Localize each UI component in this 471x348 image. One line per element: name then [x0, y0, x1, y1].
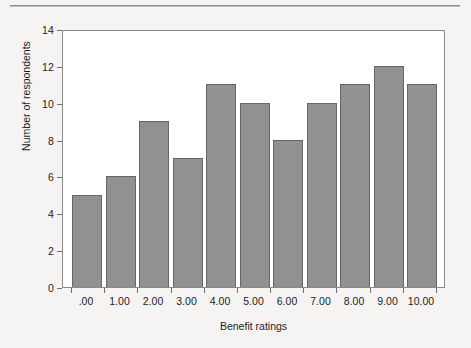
top-divider-rule — [10, 5, 460, 7]
y-axis-tick-label: 6 — [48, 171, 54, 183]
bar — [173, 158, 203, 287]
histogram-figure: 02468101214 Number of respondents .001.0… — [0, 0, 471, 348]
y-axis-title: Number of respondents — [20, 0, 32, 196]
x-axis-tick — [137, 288, 138, 293]
plot-area — [62, 30, 445, 288]
y-axis-tick-label: 4 — [48, 208, 54, 220]
bar — [106, 176, 136, 287]
x-axis-title: Benefit ratings — [62, 320, 445, 332]
y-axis-tick-label: 8 — [48, 135, 54, 147]
x-axis-tick-label: 9.00 — [373, 295, 403, 307]
x-axis-tick — [171, 288, 172, 293]
bar — [206, 84, 236, 287]
bar-series — [72, 31, 437, 287]
bar — [72, 195, 102, 287]
bar — [273, 140, 303, 287]
x-axis-tick-label: .00 — [71, 295, 101, 307]
x-axis-tick — [336, 288, 337, 293]
bar — [374, 66, 404, 287]
x-axis-tick-label: 5.00 — [239, 295, 269, 307]
x-tick-label-group: .001.002.003.004.005.006.007.008.009.001… — [71, 295, 436, 307]
y-axis-tick-label: 0 — [48, 282, 54, 294]
x-axis-tick-label: 10.00 — [406, 295, 436, 307]
x-axis-tick-label: 6.00 — [272, 295, 302, 307]
y-axis-tick-label: 12 — [42, 61, 54, 73]
x-axis-tick — [403, 288, 404, 293]
plot-inner — [63, 31, 444, 287]
x-axis-tick-label: 7.00 — [306, 295, 336, 307]
bar — [307, 103, 337, 287]
x-axis-tick — [104, 288, 105, 293]
bar — [340, 84, 370, 287]
y-axis-tick-label: 10 — [42, 98, 54, 110]
x-axis-tick — [237, 288, 238, 293]
x-axis-tick-label: 2.00 — [138, 295, 168, 307]
x-axis-tick — [270, 288, 271, 293]
x-axis-tick-label: 4.00 — [205, 295, 235, 307]
x-axis-tick — [303, 288, 304, 293]
y-axis-tick-label: 14 — [42, 24, 54, 36]
x-axis-tick-label: 1.00 — [105, 295, 135, 307]
bar — [240, 103, 270, 287]
x-axis-tick — [71, 288, 72, 293]
bar — [139, 121, 169, 287]
x-axis-tick-label: 3.00 — [172, 295, 202, 307]
y-axis-tick-label: 2 — [48, 245, 54, 257]
x-axis-tick — [370, 288, 371, 293]
x-axis-tick — [436, 288, 437, 293]
x-axis-tick — [204, 288, 205, 293]
x-axis: .001.002.003.004.005.006.007.008.009.001… — [62, 288, 445, 318]
x-axis-tick-label: 8.00 — [339, 295, 369, 307]
bar — [407, 84, 437, 287]
